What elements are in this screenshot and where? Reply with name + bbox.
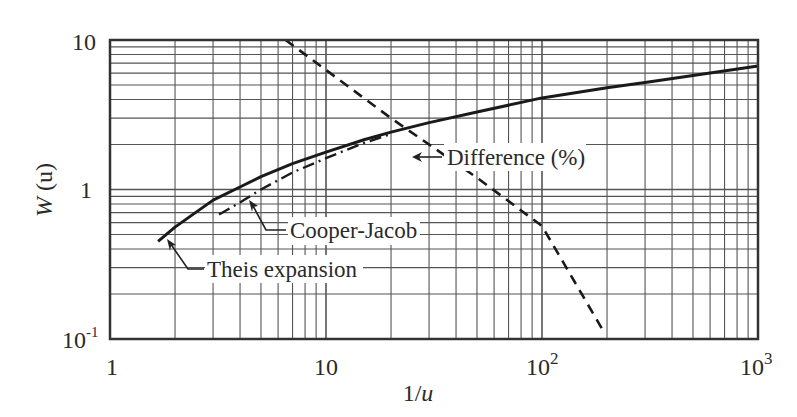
x-tick-10: 10 xyxy=(314,354,338,380)
theis-annotation: Theis expansion xyxy=(167,239,363,283)
x-tick-1: 1 xyxy=(106,354,118,380)
chart: 10 1 10-1 1 10 102 103 1/u W (u) Differe… xyxy=(0,0,797,417)
grid xyxy=(110,40,758,339)
curves xyxy=(158,40,758,334)
svg-text:Cooper-Jacob: Cooper-Jacob xyxy=(290,218,417,243)
y-tick-10: 10 xyxy=(72,29,96,55)
y-tick-0-1: 10-1 xyxy=(62,324,99,353)
series-difference xyxy=(286,40,605,334)
x-tick-100: 102 xyxy=(526,349,559,380)
x-tick-1000: 103 xyxy=(740,349,773,380)
svg-text:Difference (%): Difference (%) xyxy=(447,145,585,170)
y-axis-label: W (u) xyxy=(31,163,57,217)
y-tick-1: 1 xyxy=(80,177,92,203)
arrow-icon xyxy=(249,200,258,212)
difference-annotation: Difference (%) xyxy=(412,143,586,171)
svg-text:Theis expansion: Theis expansion xyxy=(207,257,358,282)
x-axis-label: 1/u xyxy=(403,380,434,406)
